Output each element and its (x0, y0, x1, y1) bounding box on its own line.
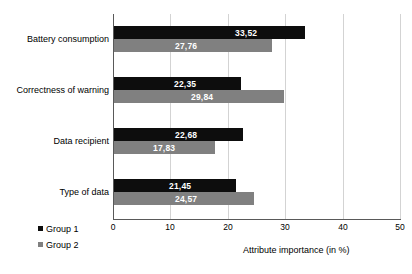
bar-value-label: 24,57 (175, 194, 197, 204)
bar-series1-cat0: 33,52 (113, 26, 305, 39)
bar-series1-cat1: 22,35 (113, 77, 241, 90)
y-axis-line (113, 14, 114, 219)
legend-item-group-1[interactable]: Group 1 (38, 222, 108, 235)
y-tick-label-0: Battery consumption (1, 34, 109, 44)
gridline-30 (285, 14, 286, 219)
bar-value-label: 22,68 (175, 130, 197, 140)
bar-value-label: 27,76 (175, 41, 197, 51)
bar-series2-cat1: 29,84 (113, 90, 284, 103)
legend-label: Group 2 (46, 240, 79, 250)
bar-value-label: 33,52 (235, 28, 257, 38)
x-tick-label-40: 40 (338, 222, 347, 233)
bar-series1-cat3: 21,45 (113, 179, 236, 192)
x-tick-label-30: 30 (280, 222, 289, 233)
legend-swatch-icon (38, 242, 43, 247)
x-axis-line (113, 219, 401, 220)
bar-value-label: 29,84 (191, 92, 213, 102)
bar-chart: 33,52 27,76 22,35 29,84 22,68 17,83 21,4… (0, 0, 412, 274)
y-tick-label-3: Type of data (1, 187, 109, 197)
x-tick-label-10: 10 (165, 222, 174, 233)
gridline-40 (343, 14, 344, 219)
gridline-50 (400, 14, 401, 219)
x-tick-label-20: 20 (223, 222, 232, 233)
legend-item-group-2[interactable]: Group 2 (38, 238, 108, 251)
bar-series2-cat2: 17,83 (113, 141, 215, 154)
legend-label: Group 1 (46, 224, 79, 234)
y-tick-label-1: Correctness of warning (1, 85, 109, 95)
y-axis-tick-labels: Battery consumption Correctness of warni… (0, 14, 109, 219)
bar-value-label: 22,35 (174, 79, 196, 89)
chart-legend: Group 1 Group 2 (38, 222, 108, 254)
bar-series2-cat3: 24,57 (113, 192, 254, 205)
plot-area: 33,52 27,76 22,35 29,84 22,68 17,83 21,4… (113, 14, 400, 219)
y-tick-label-2: Data recipient (1, 136, 109, 146)
x-tick-label-0: 0 (111, 222, 116, 233)
bar-value-label: 17,83 (153, 143, 175, 153)
bar-series2-cat0: 27,76 (113, 39, 272, 52)
legend-swatch-icon (38, 226, 43, 231)
x-tick-label-50: 50 (395, 222, 404, 233)
bar-value-label: 21,45 (169, 181, 191, 191)
x-axis-title: Attribute importance (in %) (243, 245, 350, 256)
bar-series1-cat2: 22,68 (113, 128, 243, 141)
